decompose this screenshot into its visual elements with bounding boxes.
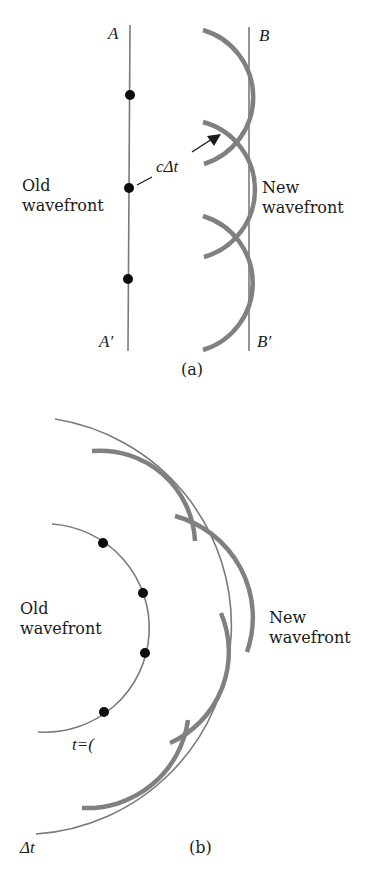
radius-arrow-shaft <box>192 139 212 152</box>
old-wavefront-label-line1: Old <box>20 599 48 618</box>
arrow-head-icon <box>207 134 221 146</box>
panel-b: Old wavefront New wavefront t=( Δt (b) <box>19 419 351 857</box>
wavefront-point <box>99 707 109 717</box>
panel-a: A B A′ B′ cΔt Old wavefront New wavefron… <box>22 24 344 379</box>
wavefront-point <box>125 90 135 100</box>
new-wavefront-label-line2: wavefront <box>262 198 344 217</box>
new-wavefront-label-line2: wavefront <box>269 628 351 647</box>
wavefront-point <box>140 648 150 658</box>
secondary-wavelet-arc <box>170 613 229 743</box>
wavefront-point <box>124 183 134 193</box>
t-zero-label: t=( <box>72 735 95 754</box>
wavefront-point <box>123 274 133 284</box>
label-a-prime: A′ <box>98 332 113 351</box>
new-wavefront-label-line1: New <box>262 178 299 197</box>
secondary-wavelet-arc <box>92 451 195 541</box>
secondary-wavelet-arc <box>203 216 253 350</box>
label-b-prime: B′ <box>257 332 271 351</box>
radius-leader-line <box>137 177 152 185</box>
old-wavefront-label-line2: wavefront <box>20 619 102 638</box>
caption-b: (b) <box>189 838 212 857</box>
new-wavefront-label-line1: New <box>269 608 306 627</box>
huygens-principle-figure: A B A′ B′ cΔt Old wavefront New wavefron… <box>0 0 381 874</box>
secondary-wavelet-arc <box>203 122 255 257</box>
wavefront-point <box>138 588 148 598</box>
secondary-wavelet-arc <box>82 720 188 808</box>
c-delta-t-label: cΔt <box>156 157 180 176</box>
secondary-wavelet-arc <box>175 516 253 652</box>
old-wavefront-label-line2: wavefront <box>22 196 104 215</box>
label-a: A <box>107 24 119 43</box>
old-wavefront-label-line1: Old <box>22 176 50 195</box>
label-b: B <box>259 26 270 45</box>
delta-t-label: Δt <box>19 838 36 857</box>
wavefront-point <box>98 538 108 548</box>
secondary-wavelet-arc <box>203 30 253 164</box>
caption-a: (a) <box>181 360 203 379</box>
